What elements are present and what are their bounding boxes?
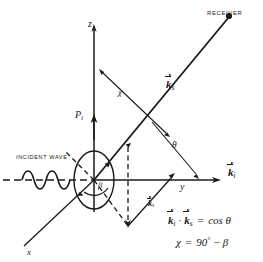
- x-axis-line: [24, 180, 94, 246]
- eq1-vec-ki-symbol: k: [168, 214, 174, 226]
- projection-vector-label: ks: [148, 200, 154, 209]
- theta-angle-line: [152, 122, 199, 179]
- k-scattered-symbol: k: [166, 79, 172, 90]
- incident-wave-label: INCIDENT WAVE: [16, 155, 68, 161]
- eq1-equals: =: [193, 214, 208, 226]
- polarization-subscript: i: [81, 114, 83, 121]
- eq1-vec-ks-symbol: k: [184, 214, 190, 226]
- chi-angle-label: χ: [118, 88, 122, 97]
- k-incident-label: ki: [228, 167, 236, 179]
- scattering-geometry-figure: RECEIVER INCIDENT WAVE z y x Pi χ θ β ks…: [0, 0, 263, 262]
- eq1-dot-operator: ·: [176, 214, 185, 226]
- projection-dashed-vertical: [125, 147, 131, 228]
- eq2-value: 90: [196, 236, 207, 248]
- polarization-label: Pi: [75, 110, 83, 121]
- projection-vector-symbol: k: [148, 200, 152, 208]
- polarization-arrow: [91, 114, 98, 140]
- theta-angle-label: θ: [172, 141, 177, 151]
- receiver-label: RECEIVER: [207, 10, 242, 16]
- x-axis-dashed-upper: [64, 150, 94, 180]
- projection-vector-subscript: s: [152, 202, 154, 208]
- k-incident-symbol: k: [228, 167, 234, 178]
- y-axis-line: [94, 177, 221, 183]
- beta-angle-label: β: [98, 181, 102, 190]
- x-axis-label: x: [27, 248, 31, 257]
- eq2-equals: =: [181, 236, 196, 248]
- k-scattered-label: ks: [166, 79, 174, 91]
- eq2-beta-symbol: β: [223, 236, 228, 248]
- eq2-minus: −: [210, 236, 222, 248]
- chi-angle-line: [99, 69, 170, 137]
- equation-chi-relation: χ=90°−β: [176, 236, 228, 248]
- y-axis-label: y: [180, 182, 184, 192]
- ray-direction-tick: [126, 143, 131, 148]
- scattered-ray-to-receiver: [94, 13, 232, 180]
- z-axis-label: z: [88, 19, 92, 29]
- eq1-rhs: cos θ: [208, 214, 231, 226]
- equation-dot-product: ki·ks=cos θ: [168, 214, 231, 228]
